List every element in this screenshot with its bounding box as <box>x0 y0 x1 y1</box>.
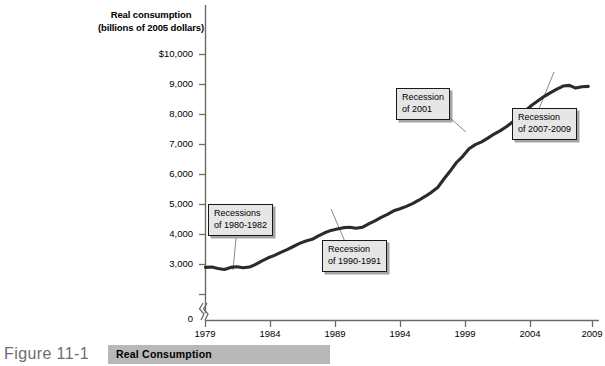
x-tick-label-1999: 1999 <box>442 329 488 339</box>
y-tick-label-10000: $10,000 <box>131 49 193 59</box>
annotation-recession-1990-1991: Recession of 1990-1991 <box>322 240 387 272</box>
y-tick-label-5000: 5,000 <box>131 199 193 209</box>
annotation-recession-2001: Recession of 2001 <box>396 88 450 120</box>
x-tick-label-1984: 1984 <box>247 329 293 339</box>
annotation-1980-line1: Recessions <box>214 208 267 220</box>
x-tick-label-2009: 2009 <box>569 329 605 339</box>
annotation-recession-2007-2009: Recession of 2007-2009 <box>512 108 577 140</box>
figure-caption-title: Real Consumption <box>116 348 212 360</box>
annotation-2001-line1: Recession <box>402 92 444 104</box>
annotation-leader-lines <box>233 72 554 270</box>
y-tick-label-4000: 4,000 <box>131 229 193 239</box>
y-tick-label-0: 0 <box>131 314 193 324</box>
x-tick-label-1989: 1989 <box>312 329 358 339</box>
annotation-1980-line2: of 1980-1982 <box>214 220 267 232</box>
annotation-1990-line1: Recession <box>328 244 381 256</box>
axis-break-icon <box>200 303 209 320</box>
annotation-2007-line1: Recession <box>518 112 571 124</box>
x-tick-label-1979: 1979 <box>182 329 228 339</box>
y-tick-label-8000: 8,000 <box>131 109 193 119</box>
annotation-1990-line2: of 1990-1991 <box>328 256 381 268</box>
chart-plot <box>0 0 605 366</box>
leader-line-1980 <box>233 238 236 270</box>
x-tick-label-2004: 2004 <box>507 329 553 339</box>
annotation-2001-line2: of 2001 <box>402 104 444 116</box>
y-tick-label-7000: 7,000 <box>131 139 193 149</box>
y-tick-label-3000: 3,000 <box>131 259 193 269</box>
leader-line-2001 <box>449 117 466 132</box>
annotation-recessions-1980-1982: Recessions of 1980-1982 <box>208 204 273 236</box>
annotation-2007-line2: of 2007-2009 <box>518 124 571 136</box>
figure-number: Figure 11-1 <box>4 345 89 363</box>
y-tick-label-6000: 6,000 <box>131 169 193 179</box>
y-tick-label-9000: 9,000 <box>131 79 193 89</box>
x-tick-label-1994: 1994 <box>377 329 423 339</box>
figure-container: Real consumption (billions of 2005 dolla… <box>0 0 605 366</box>
